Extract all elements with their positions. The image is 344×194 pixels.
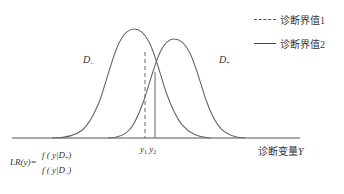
legend-item-cutoff-2: 诊断界值2: [254, 36, 325, 51]
legend-item-cutoff-1: 诊断界值1: [254, 12, 325, 27]
legend-label: 诊断界值2: [280, 36, 325, 51]
y1-sub: 1: [144, 149, 147, 155]
formula-denominator: f ( y|D−): [42, 163, 71, 181]
numerator-text: f ( y|D: [42, 150, 65, 160]
label-sub: +: [226, 60, 229, 66]
y2-sub: 2: [153, 149, 156, 155]
curve-negative: [52, 29, 210, 138]
formula-lhs: LR(y)=: [10, 155, 37, 170]
legend-label: 诊断界值1: [280, 12, 325, 27]
axis-label-text: 诊断变量: [258, 146, 298, 157]
formula-lhs-text: LR(y)=: [10, 157, 37, 167]
denominator-close: ): [68, 165, 71, 175]
label-d-positive: D+: [219, 54, 230, 66]
cutoff-labels: y1 y2: [140, 144, 156, 155]
axis-var: Y: [298, 146, 304, 157]
denominator-text: f ( y|D: [42, 165, 65, 175]
axis-label: 诊断变量Y: [258, 143, 304, 158]
solid-line-icon: [254, 43, 276, 44]
label-d-negative: D−: [83, 54, 94, 66]
dashed-line-icon: [254, 19, 276, 20]
label-sub: −: [90, 60, 93, 66]
numerator-close: ): [68, 150, 71, 160]
